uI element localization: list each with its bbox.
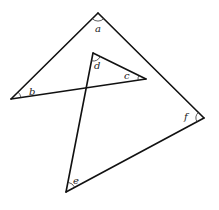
segment-a-b xyxy=(11,13,98,99)
angle-label-a: a xyxy=(95,23,101,34)
angle-label-c: c xyxy=(124,70,130,81)
segment-a-f xyxy=(98,13,204,118)
segment-c-d xyxy=(93,53,146,79)
angle-diagram: a b c d e f xyxy=(0,0,219,210)
angle-label-d: d xyxy=(94,60,100,71)
angle-arc-a xyxy=(92,19,103,21)
segment-d-e xyxy=(66,53,93,192)
angle-label-b: b xyxy=(29,86,35,97)
angle-label-e: e xyxy=(73,175,79,186)
angle-arc-b xyxy=(18,92,21,98)
angle-label-f: f xyxy=(183,111,190,122)
segment-e-f xyxy=(66,118,204,192)
